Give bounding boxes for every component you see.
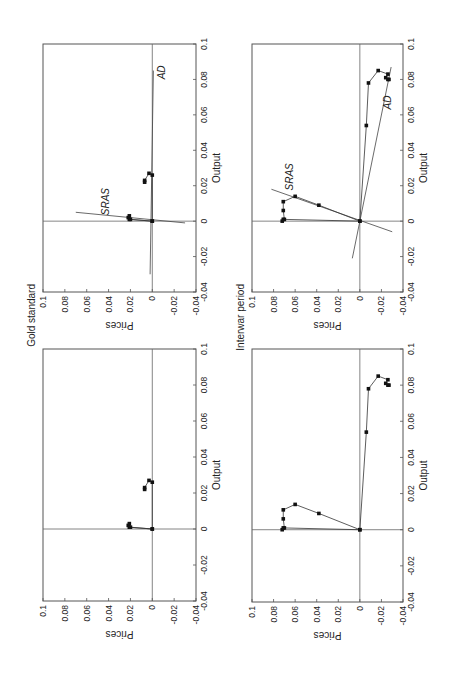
data-point — [365, 124, 369, 128]
data-point — [129, 525, 133, 529]
prices-tick-label: -0.04 — [398, 296, 408, 316]
output-axis-label: Output — [211, 460, 222, 490]
prices-tick-label: 0 — [147, 296, 157, 301]
chart-canvas: -0.04-0.0200.020.040.060.080.1-0.04-0.02… — [0, 0, 456, 679]
data-point — [386, 72, 390, 76]
prices-tick-label: -0.02 — [376, 296, 386, 316]
data-point — [281, 218, 285, 222]
prices-tick-label: 0 — [355, 606, 365, 611]
prices-tick-label: 0.1 — [38, 605, 48, 617]
data-point — [358, 528, 362, 532]
prices-tick-label: 0.06 — [82, 605, 92, 622]
data-point — [365, 430, 369, 434]
data-point — [281, 526, 285, 530]
sras-label: SRAS — [284, 163, 295, 191]
data-point — [281, 200, 285, 204]
data-point — [358, 219, 362, 223]
data-point — [147, 479, 151, 483]
data-point — [150, 480, 154, 484]
output-tick-label: 0.1 — [406, 343, 416, 355]
output-tick-label: -0.02 — [199, 247, 209, 267]
prices-axis-label: Prices — [314, 320, 342, 331]
output-tick-label: 0.02 — [406, 177, 416, 194]
prices-tick-label: -0.04 — [191, 296, 201, 316]
prices-tick-label: -0.04 — [398, 606, 408, 626]
data-point — [150, 219, 154, 223]
output-tick-label: 0.1 — [199, 38, 209, 50]
prices-tick-label: 0.04 — [312, 606, 322, 623]
output-tick-label: 0.08 — [406, 377, 416, 394]
output-tick-label: 0.06 — [406, 413, 416, 430]
prices-tick-label: 0 — [147, 605, 157, 610]
data-point — [386, 378, 390, 382]
ad-label: AD — [382, 96, 393, 111]
output-tick-label: 0.1 — [199, 343, 209, 355]
data-point — [281, 517, 285, 521]
output-tick-label: 0.06 — [406, 106, 416, 123]
prices-tick-label: 0.02 — [333, 606, 343, 623]
output-tick-label: 0.08 — [199, 376, 209, 393]
plot-frame — [43, 44, 196, 292]
data-point — [143, 488, 147, 492]
data-point — [293, 195, 297, 199]
data-point — [367, 81, 371, 85]
output-axis-label: Output — [418, 460, 429, 490]
prices-tick-label: 0.04 — [312, 296, 322, 313]
data-point — [376, 69, 380, 73]
data-point — [317, 512, 321, 516]
prices-tick-label: 0.06 — [290, 606, 300, 623]
panel-title: Gold standard — [26, 284, 37, 347]
prices-tick-label: 0 — [355, 296, 365, 301]
output-tick-label: -0.02 — [406, 247, 416, 267]
output-tick-label: -0.02 — [199, 555, 209, 575]
data-point — [281, 508, 285, 512]
panel-title: Interwar period — [235, 284, 246, 351]
prices-tick-label: 0.02 — [125, 605, 135, 622]
prices-tick-label: 0.08 — [269, 606, 279, 623]
data-point — [143, 180, 147, 184]
output-tick-label: 0.04 — [199, 448, 209, 465]
data-point — [293, 503, 297, 507]
data-point — [367, 387, 371, 391]
data-point — [376, 374, 380, 378]
prices-tick-label: 0.1 — [38, 296, 48, 308]
output-tick-label: 0.02 — [199, 484, 209, 501]
prices-tick-label: 0.02 — [125, 296, 135, 313]
data-point — [128, 522, 132, 526]
output-tick-label: 0 — [199, 219, 209, 224]
prices-tick-label: 0.08 — [269, 296, 279, 313]
output-axis-label: Output — [418, 153, 429, 183]
output-tick-label: 0.1 — [406, 38, 416, 50]
output-tick-label: 0.02 — [406, 485, 416, 502]
output-tick-label: 0 — [199, 526, 209, 531]
plot-frame — [252, 44, 403, 292]
prices-tick-label: 0.06 — [82, 296, 92, 313]
output-tick-label: 0 — [406, 219, 416, 224]
prices-tick-label: 0.08 — [60, 605, 70, 622]
data-point — [150, 527, 154, 531]
data-path — [128, 480, 152, 529]
prices-tick-label: 0.02 — [333, 296, 343, 313]
prices-tick-label: 0.1 — [247, 296, 257, 308]
data-path — [128, 173, 152, 221]
prices-tick-label: -0.02 — [376, 606, 386, 626]
prices-tick-label: -0.02 — [169, 296, 179, 316]
prices-tick-label: 0.04 — [104, 296, 114, 313]
prices-tick-label: 0.1 — [247, 606, 257, 618]
sras-label: SRAS — [100, 188, 111, 216]
plot-frame — [252, 349, 403, 602]
output-tick-label: 0.06 — [199, 106, 209, 123]
prices-axis-label: Prices — [106, 320, 134, 331]
prices-tick-label: 0.06 — [290, 296, 300, 313]
output-tick-label: 0.08 — [199, 71, 209, 88]
prices-tick-label: 0.04 — [104, 605, 114, 622]
prices-tick-label: 0.08 — [60, 296, 70, 313]
prices-tick-label: -0.02 — [169, 605, 179, 625]
data-point — [387, 78, 391, 82]
figure: -0.04-0.0200.020.040.060.080.1-0.04-0.02… — [0, 0, 456, 679]
data-point — [129, 218, 133, 222]
data-point — [147, 172, 151, 176]
data-path — [282, 376, 389, 530]
output-tick-label: -0.02 — [406, 556, 416, 576]
data-point — [281, 209, 285, 213]
